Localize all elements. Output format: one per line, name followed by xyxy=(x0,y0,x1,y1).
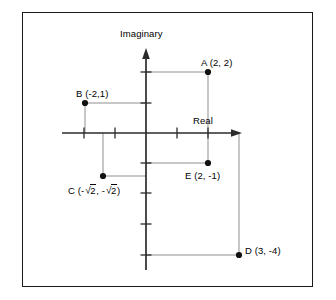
point-label-c-prefix: C (- xyxy=(68,185,84,196)
real-axis-arrowhead xyxy=(231,129,242,137)
point-b[interactable] xyxy=(82,100,88,106)
imaginary-axis-arrowhead xyxy=(142,48,150,59)
connector-lines xyxy=(85,72,239,255)
point-label-e: E (2, -1) xyxy=(185,170,220,181)
radical-one: √2 xyxy=(84,184,96,196)
radical-argument-one: 2 xyxy=(90,184,96,196)
radical-two: √2 xyxy=(105,184,117,196)
point-c[interactable] xyxy=(100,173,106,179)
real-axis-label: Real xyxy=(193,115,213,126)
imaginary-axis-label: Imaginary xyxy=(120,28,163,39)
complex-plane-plot xyxy=(0,0,336,300)
point-label-a: A (2, 2) xyxy=(201,57,232,68)
point-label-b: B (-2,1) xyxy=(76,88,108,99)
point-label-c-mid: , - xyxy=(96,185,105,196)
point-e[interactable] xyxy=(205,160,211,166)
point-d[interactable] xyxy=(236,252,242,258)
point-a[interactable] xyxy=(205,69,211,75)
complex-plane-figure: Imaginary Real A (2, 2) B (-2,1) C (-√2,… xyxy=(0,0,336,300)
point-label-d: D (3, -4) xyxy=(245,245,281,256)
radical-argument-two: 2 xyxy=(111,184,117,196)
point-label-c: C (-√2, -√2) xyxy=(68,184,120,196)
point-label-c-suffix: ) xyxy=(117,185,120,196)
